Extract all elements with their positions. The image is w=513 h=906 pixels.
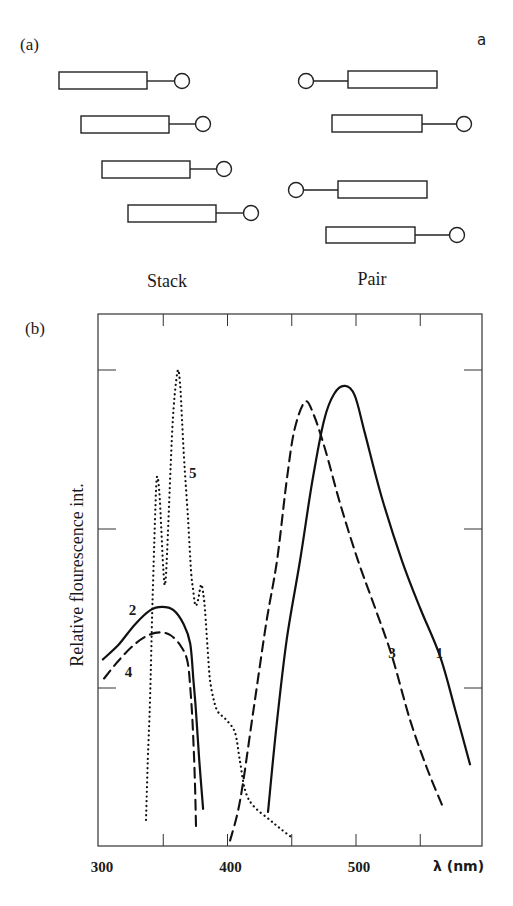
- plot-frame: [98, 314, 482, 846]
- curve-label-3: 3: [388, 645, 396, 661]
- pair-unit: [332, 115, 472, 132]
- pair-unit: [289, 181, 428, 198]
- head-group-circle: [217, 162, 232, 177]
- head-group-circle: [196, 117, 211, 132]
- corner-mark: a: [477, 31, 486, 49]
- curve-labels: 12345: [125, 465, 443, 680]
- x-axis-label: λ (nm): [433, 858, 484, 874]
- curve-3: [230, 401, 443, 840]
- chromophore-bar: [128, 205, 216, 222]
- head-group-circle: [244, 206, 259, 221]
- curve-label-1: 1: [436, 645, 444, 661]
- stack-unit: [128, 205, 259, 222]
- panel-a: (a) Stack Pair: [20, 35, 472, 291]
- x-tick-label: 300: [91, 859, 114, 875]
- head-group-circle: [450, 228, 465, 243]
- chromophore-bar: [326, 227, 415, 243]
- x-tick-label: 400: [219, 859, 242, 875]
- panel-b-label: (b): [25, 319, 45, 338]
- chromophore-bar: [338, 181, 427, 198]
- curve-label-4: 4: [125, 664, 133, 680]
- curve-4: [104, 632, 196, 826]
- chromophore-bar: [102, 161, 190, 178]
- head-group-circle: [175, 74, 190, 89]
- x-tick-label: 500: [348, 859, 371, 875]
- curve-1: [268, 386, 470, 812]
- pair-unit: [299, 71, 438, 89]
- stack-diagram: [59, 72, 259, 222]
- stack-unit: [81, 116, 211, 133]
- head-group-circle: [457, 117, 472, 132]
- pair-label: Pair: [358, 269, 387, 289]
- curve-label-2: 2: [129, 602, 137, 618]
- x-tick-labels: 300400500: [91, 859, 371, 875]
- y-axis-label: Relative flourescence int.: [67, 483, 87, 666]
- stack-unit: [59, 72, 190, 89]
- panel-a-label: (a): [20, 35, 39, 54]
- pair-diagram: [289, 71, 472, 243]
- chromophore-bar: [332, 115, 422, 132]
- curve-label-5: 5: [189, 465, 197, 481]
- pair-unit: [326, 227, 465, 243]
- stack-unit: [102, 161, 232, 178]
- spectrum-curves: [103, 370, 470, 841]
- chromophore-bar: [81, 116, 169, 133]
- figure: a (a) Stack Pair (b) 300400500 λ (nm) Re…: [0, 0, 513, 906]
- panel-b: (b) 300400500 λ (nm) Relative flourescen…: [25, 314, 484, 875]
- stack-label: Stack: [147, 271, 187, 291]
- curve-2: [103, 607, 203, 809]
- chromophore-bar: [59, 72, 147, 89]
- head-group-circle: [299, 74, 314, 89]
- axis-ticks: [98, 314, 482, 846]
- chromophore-bar: [348, 71, 437, 88]
- head-group-circle: [289, 183, 304, 198]
